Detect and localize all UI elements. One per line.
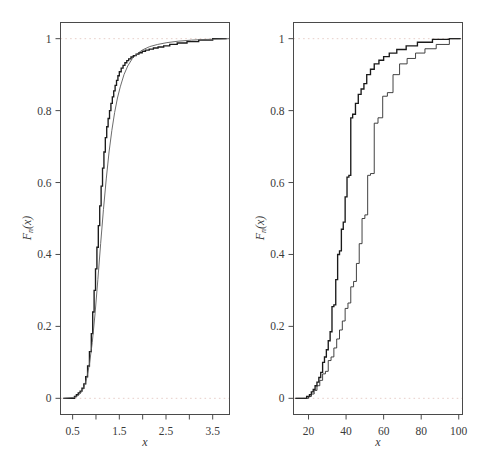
plot-frame-right: [294, 23, 463, 415]
svg-text:Fn(x): Fn(x): [253, 216, 268, 242]
y-axis-tick-labels-right: 00.20.40.60.81: [270, 33, 285, 405]
y-axis-tick-labels-left: 00.20.40.60.81: [37, 33, 52, 405]
chart-panel-left: 0.51.52.53.5 00.20.40.60.81 x Fn(x): [0, 0, 245, 468]
x-axis-ticks-left: [73, 415, 213, 420]
figure-container: 0.51.52.53.5 00.20.40.60.81 x Fn(x) 2040…: [0, 0, 489, 468]
y-tick-label-1: 1: [46, 33, 52, 45]
reference-lines-left: [61, 39, 230, 399]
data-series-left: [63, 39, 228, 399]
y-tick-label-0.6: 0.6: [270, 177, 285, 189]
x-tick-label-40: 40: [340, 425, 352, 437]
y-axis-ticks-left: [56, 39, 61, 399]
y-tick-label-0: 0: [279, 392, 285, 404]
chart-panel-right: 20406080100 00.20.40.60.81 x Fn(x): [245, 0, 489, 468]
y-tick-label-0.4: 0.4: [270, 248, 285, 260]
y-tick-label-0.4: 0.4: [37, 248, 52, 260]
x-axis-title-left: x: [141, 435, 148, 449]
x-axis-tick-labels-right: 20406080100: [303, 425, 468, 437]
x-tick-label-80: 80: [415, 425, 427, 437]
y-axis-ticks-right: [289, 39, 294, 399]
series-path-right-0: [295, 39, 460, 399]
series-path-right-1: [295, 39, 460, 399]
y-tick-label-0.8: 0.8: [37, 105, 52, 117]
data-series-right: [295, 39, 460, 399]
series-path-left-1: [63, 39, 228, 399]
ecdf-chart-right: 20406080100 00.20.40.60.81 x Fn(x): [245, 0, 489, 468]
ecdf-chart-left: 0.51.52.53.5 00.20.40.60.81 x Fn(x): [0, 0, 245, 468]
y-tick-label-1: 1: [279, 33, 285, 45]
y-tick-label-0.2: 0.2: [37, 320, 52, 332]
x-axis-ticks-right: [309, 415, 459, 420]
y-tick-label-0.8: 0.8: [270, 105, 285, 117]
plot-frame-left: [61, 23, 230, 415]
reference-lines-right: [294, 39, 463, 399]
y-axis-title-left: Fn(x): [20, 216, 35, 242]
x-tick-label-1.5: 1.5: [112, 425, 127, 437]
x-tick-label-2.5: 2.5: [159, 425, 174, 437]
y-tick-label-0.2: 0.2: [270, 320, 285, 332]
svg-text:Fn(x): Fn(x): [20, 216, 35, 242]
x-tick-label-20: 20: [303, 425, 315, 437]
series-path-left-0: [63, 39, 226, 399]
x-tick-label-0.5: 0.5: [65, 425, 80, 437]
x-axis-title-right: x: [374, 435, 381, 449]
x-tick-label-100: 100: [450, 425, 468, 437]
y-tick-label-0.6: 0.6: [37, 177, 52, 189]
x-tick-label-3.5: 3.5: [206, 425, 221, 437]
y-axis-title-right: Fn(x): [253, 216, 268, 242]
y-tick-label-0: 0: [46, 392, 52, 404]
